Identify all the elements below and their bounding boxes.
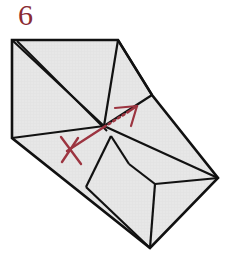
origami-diagram-figure: 6 [0,0,235,269]
origami-illustration [0,0,235,269]
